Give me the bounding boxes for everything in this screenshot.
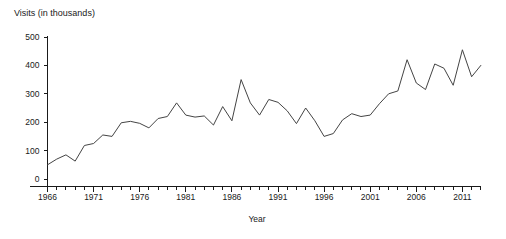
x-axis-tick-label: 2001 [361,192,380,202]
x-axis-tick-label: 1986 [222,192,241,202]
y-axis-tick-label: 400 [25,60,39,70]
x-axis-tick-label: 1996 [315,192,334,202]
y-axis-tick-label: 200 [25,117,39,127]
y-axis-tick-label: 0 [35,174,40,184]
y-axis-tick-label: 100 [25,146,39,156]
x-axis-tick-label: 2011 [453,192,472,202]
x-axis-tick-label: 2006 [407,192,426,202]
x-axis-tick-label: 1976 [130,192,149,202]
x-axis-ticks [48,187,463,192]
x-axis-tick-labels: 1966197119761981198619911996200120062011 [38,192,472,202]
chart-canvas: Visits (in thousands) 0100200300400500 1… [0,0,506,239]
y-axis-ticks: 0100200300400500 [25,32,47,184]
x-axis-title: Year [248,214,265,224]
x-axis-tick-label: 1971 [84,192,103,202]
y-axis-tick-label: 500 [25,32,39,42]
y-axis-title: Visits (in thousands) [14,8,95,18]
y-axis-tick-label: 300 [25,89,39,99]
x-axis-tick-label: 1981 [176,192,195,202]
x-axis-tick-label: 1966 [38,192,57,202]
x-axis-tick-label: 1991 [269,192,288,202]
line-chart: Visits (in thousands) 0100200300400500 1… [0,0,506,239]
data-series-line [48,50,481,165]
